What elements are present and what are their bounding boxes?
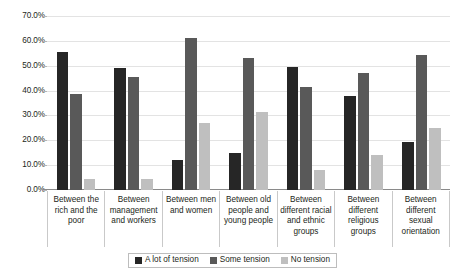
category-labels: Between the rich and the poorBetween man… — [47, 191, 450, 247]
category-label: Between the rich and the poor — [47, 191, 105, 247]
category-label: Between old people and young people — [220, 191, 277, 247]
category-label: Between men and women — [163, 191, 220, 247]
bar — [229, 153, 241, 190]
bar — [172, 160, 184, 190]
y-axis-tick-label: 20.0% — [3, 136, 45, 144]
category-label: Between different sexual orientation — [393, 191, 450, 247]
bar-group — [335, 16, 393, 190]
bar-group — [162, 16, 220, 190]
y-axis-tick-mark — [43, 190, 47, 191]
legend-label: No tension — [291, 256, 330, 264]
bar — [57, 52, 69, 190]
category-label: Between different religious groups — [335, 191, 392, 247]
bar — [402, 142, 414, 190]
y-axis-tick-label: 0.0% — [3, 186, 45, 194]
chart-legend: A lot of tensionSome tensionNo tension — [128, 253, 337, 268]
y-axis-tick-mark — [43, 140, 47, 141]
bar — [300, 87, 312, 190]
legend-label: A lot of tension — [145, 256, 199, 264]
bar — [128, 77, 140, 190]
bar-group — [220, 16, 278, 190]
bar — [84, 179, 96, 190]
y-axis-tick-label: 70.0% — [3, 12, 45, 20]
y-axis-tick-mark — [43, 165, 47, 166]
bar — [243, 58, 255, 190]
bar — [185, 38, 197, 190]
legend-swatch-icon — [281, 257, 288, 264]
category-label: Between different racial and ethnic grou… — [278, 191, 335, 247]
legend-swatch-icon — [210, 257, 217, 264]
y-axis-tick-mark — [43, 66, 47, 67]
bar — [429, 128, 441, 190]
legend-label: Some tension — [220, 256, 270, 264]
legend-item[interactable]: Some tension — [210, 256, 270, 264]
bar — [314, 170, 326, 190]
bar-groups — [47, 16, 450, 190]
bar — [141, 179, 153, 190]
bar — [344, 96, 356, 190]
y-axis-tick-label: 60.0% — [3, 37, 45, 45]
bar-group — [392, 16, 450, 190]
y-axis-tick-mark — [43, 16, 47, 17]
bar — [199, 123, 211, 190]
y-axis-tick-mark — [43, 91, 47, 92]
bar-group — [47, 16, 105, 190]
bar-chart: 0.0%10.0%20.0%30.0%40.0%50.0%60.0%70.0% … — [0, 0, 457, 274]
y-axis-labels: 0.0%10.0%20.0%30.0%40.0%50.0%60.0%70.0% — [0, 0, 45, 274]
bar-group — [277, 16, 335, 190]
bar — [416, 55, 428, 190]
legend-swatch-icon — [135, 257, 142, 264]
bar — [287, 67, 299, 190]
bar — [114, 68, 126, 190]
y-axis-tick-label: 50.0% — [3, 62, 45, 70]
bar — [371, 155, 383, 190]
legend-item[interactable]: No tension — [281, 256, 330, 264]
bar — [70, 94, 82, 190]
bar-group — [105, 16, 163, 190]
y-axis-tick-mark — [43, 115, 47, 116]
y-axis-tick-mark — [43, 41, 47, 42]
category-label: Between management and workers — [105, 191, 162, 247]
bar — [358, 73, 370, 190]
bar — [256, 112, 268, 190]
y-axis-tick-label: 30.0% — [3, 111, 45, 119]
y-axis-tick-label: 10.0% — [3, 161, 45, 169]
legend-item[interactable]: A lot of tension — [135, 256, 199, 264]
y-axis-tick-label: 40.0% — [3, 87, 45, 95]
